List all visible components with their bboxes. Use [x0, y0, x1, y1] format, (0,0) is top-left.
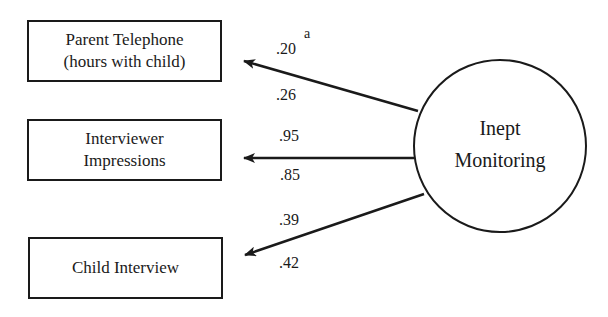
indicator-box-parent-telephone: Parent Telephone (hours with child) — [27, 20, 222, 82]
loading-upper-interviewer-impressions: .95 — [279, 127, 299, 145]
loading-upper-child-interview: .39 — [279, 211, 299, 229]
indicator-box-interviewer-impressions: Interviewer Impressions — [27, 119, 222, 181]
indicator-label-line2: Impressions — [83, 150, 165, 172]
indicator-label-line2: (hours with child) — [64, 51, 186, 73]
footnote-superscript: a — [304, 26, 310, 42]
latent-label-line2: Monitoring — [420, 144, 580, 176]
loading-lower-interviewer-impressions: .85 — [280, 166, 300, 184]
indicator-box-child-interview: Child Interview — [28, 237, 223, 299]
loading-lower-child-interview: .42 — [279, 254, 299, 272]
indicator-label-line1: Interviewer — [85, 128, 163, 150]
path-arrow-child-interview — [245, 194, 424, 255]
indicator-label-line1: Parent Telephone — [66, 29, 184, 51]
loading-upper-parent-telephone: .20 — [276, 40, 296, 58]
latent-label: Inept Monitoring — [420, 112, 580, 176]
path-arrow-parent-telephone — [244, 61, 418, 111]
loading-lower-parent-telephone: .26 — [276, 86, 296, 104]
latent-label-line1: Inept — [420, 112, 580, 144]
indicator-label-line1: Child Interview — [72, 257, 179, 279]
